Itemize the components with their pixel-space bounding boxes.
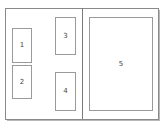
layout-diagram: 1 2 3 4 5 — [0, 0, 164, 128]
frame-label: 5 — [119, 61, 123, 68]
frame-label: 3 — [63, 33, 67, 40]
frame-1: 1 — [12, 28, 32, 63]
frame-label: 1 — [20, 42, 24, 49]
frame-4: 4 — [55, 72, 76, 111]
frame-2: 2 — [12, 65, 32, 99]
frame-5: 5 — [89, 17, 153, 111]
frame-label: 2 — [20, 79, 24, 86]
frame-label: 4 — [63, 88, 67, 95]
frame-3: 3 — [55, 17, 76, 55]
page-divider — [82, 8, 83, 119]
